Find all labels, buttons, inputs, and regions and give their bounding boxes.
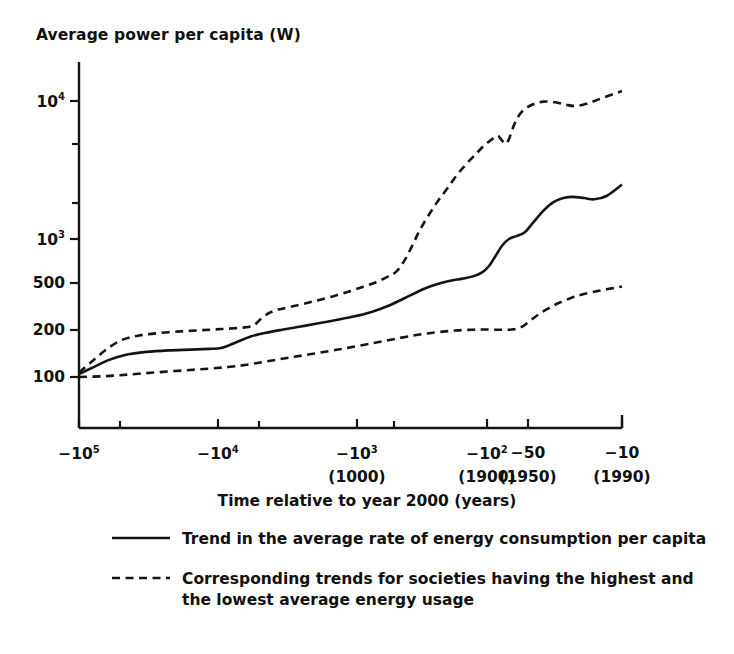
y-tick-label: 104 <box>0 91 65 110</box>
x-tick-sublabel: (1000) <box>328 468 385 486</box>
dashed-line-key <box>110 569 172 585</box>
series-line-0 <box>79 185 622 375</box>
y-tick-label: 500 <box>0 274 65 292</box>
y-tick-label: 200 <box>0 321 65 339</box>
y-tick-label: 103 <box>0 229 65 248</box>
x-tick-label: −50 <box>511 444 546 462</box>
legend-item-0: Trend in the average rate of energy cons… <box>110 529 710 550</box>
legend-label: Corresponding trends for societies havin… <box>182 569 710 611</box>
x-tick-label: −102 <box>466 444 508 463</box>
legend-item-1: Corresponding trends for societies havin… <box>110 569 710 611</box>
tick-marks <box>70 101 622 428</box>
legend-label: Trend in the average rate of energy cons… <box>182 529 706 550</box>
x-tick-label: −105 <box>58 444 100 463</box>
x-tick-label: −103 <box>336 444 378 463</box>
chart-figure: Average power per capita (W) 10410350020… <box>0 0 734 654</box>
x-tick-label: −10 <box>605 444 640 462</box>
data-series <box>79 91 622 377</box>
x-tick-label: −104 <box>197 444 239 463</box>
series-line-1 <box>79 91 622 372</box>
plot-canvas <box>0 0 734 654</box>
y-tick-label: 100 <box>0 368 65 386</box>
x-axis-title: Time relative to year 2000 (years) <box>0 492 734 510</box>
solid-line-key <box>110 529 172 545</box>
x-tick-sublabel: (1950) <box>499 468 556 486</box>
series-line-2 <box>79 287 622 377</box>
x-tick-sublabel: (1990) <box>593 468 650 486</box>
